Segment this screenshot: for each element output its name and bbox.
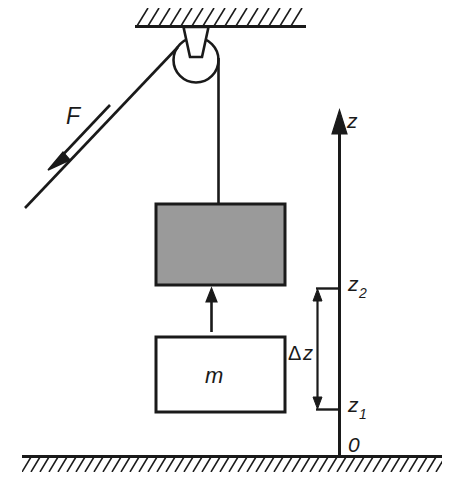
delta-z-dimension	[313, 289, 322, 409]
rope-pull-side	[25, 47, 178, 208]
z2-base: z	[347, 272, 359, 295]
z2-subscript: 2	[358, 285, 367, 301]
force-label: F	[66, 103, 82, 129]
hatched-ground	[22, 457, 445, 473]
pulley-assembly	[174, 27, 219, 83]
z2-label: z 2	[347, 272, 367, 301]
z-axis-label: z	[346, 109, 358, 132]
z1-subscript: 1	[359, 406, 367, 422]
physics-diagram-figure: F z m z 2 z 1 Δ z 0	[0, 0, 464, 502]
z1-base: z	[347, 393, 359, 416]
ground-hatching	[22, 457, 445, 472]
mass-label: m	[205, 363, 223, 388]
block-raised	[156, 204, 285, 285]
z-axis-arrowhead	[332, 110, 347, 134]
ceiling-hatching	[137, 8, 302, 26]
hatched-ceiling	[135, 8, 306, 27]
diagram-canvas: F z m z 2 z 1 Δ z 0	[0, 0, 464, 502]
motion-arrow-up	[206, 288, 217, 332]
delta-z-variable: z	[302, 342, 313, 364]
origin-label: 0	[348, 433, 360, 456]
z-axis	[332, 110, 347, 456]
z1-label: z 1	[347, 393, 367, 422]
delta-z-label: Δ z	[288, 342, 313, 364]
delta-symbol: Δ	[288, 342, 301, 364]
